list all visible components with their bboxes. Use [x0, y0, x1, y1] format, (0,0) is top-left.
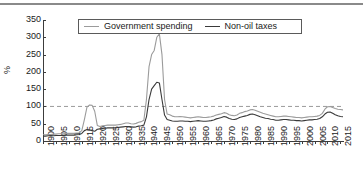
line-non-oil-taxes [43, 82, 343, 136]
x-tick-mark-2005 [315, 141, 316, 144]
x-tick-mark-2015 [340, 141, 341, 144]
x-tick-mark-1925 [108, 141, 109, 144]
x-tick-mark-1940 [146, 141, 147, 144]
x-tick-mark-1905 [56, 141, 57, 144]
plot-area [43, 20, 343, 141]
x-tick-mark-1985 [263, 141, 264, 144]
x-tick-mark-1935 [134, 141, 135, 144]
x-tick-mark-1960 [198, 141, 199, 144]
x-tick-mark-1945 [159, 141, 160, 144]
legend-swatch-icon-non-oil-taxes [205, 26, 220, 27]
y-tick-mark-350 [43, 20, 46, 21]
x-tick-mark-1990 [276, 141, 277, 144]
legend-entry-government-spending: Government spending [84, 22, 193, 31]
x-tick-mark-1955 [185, 141, 186, 144]
x-tick-mark-1975 [237, 141, 238, 144]
y-tick-mark-150 [43, 89, 46, 90]
x-tick-mark-1910 [69, 141, 70, 144]
series-canvas [43, 20, 343, 141]
y-tick-mark-50 [43, 124, 46, 125]
line-government-spending [43, 34, 343, 135]
x-tick-mark-1980 [250, 141, 251, 144]
y-tick-mark-100 [43, 106, 46, 107]
legend-swatch-icon-government-spending [84, 26, 99, 27]
top-divider-rule [0, 3, 363, 5]
y-tick-mark-250 [43, 55, 46, 56]
chart-figure: % 050100150200250300350 1900190519101915… [0, 6, 363, 181]
chart-legend: Government spending Non-oil taxes [78, 19, 302, 34]
legend-label-government-spending: Government spending [104, 22, 193, 31]
legend-label-non-oil-taxes: Non-oil taxes [225, 22, 278, 31]
x-tick-mark-1965 [211, 141, 212, 144]
legend-entry-non-oil-taxes: Non-oil taxes [205, 22, 278, 31]
x-tick-mark-1970 [224, 141, 225, 144]
x-tick-mark-2000 [302, 141, 303, 144]
x-tick-mark-1900 [43, 141, 44, 144]
x-tick-mark-1930 [121, 141, 122, 144]
x-tick-mark-1915 [82, 141, 83, 144]
y-tick-mark-300 [43, 37, 46, 38]
x-tick-mark-1950 [172, 141, 173, 144]
y-tick-mark-200 [43, 72, 46, 73]
x-axis-line [43, 141, 344, 142]
x-tick-mark-1920 [95, 141, 96, 144]
x-tick-label-2015: 2015 [344, 126, 353, 146]
x-tick-mark-1995 [289, 141, 290, 144]
x-tick-mark-2010 [327, 141, 328, 144]
